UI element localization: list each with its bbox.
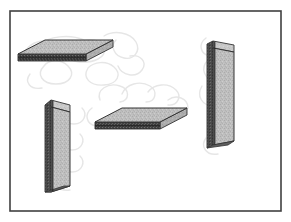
slab-3-face xyxy=(51,107,70,192)
slab-right-vertical xyxy=(207,41,234,148)
figure-root xyxy=(0,0,291,222)
slab-2-face xyxy=(213,48,234,145)
slab-3-edge-face xyxy=(45,100,51,192)
slab-bottom-left-vertical xyxy=(45,100,70,192)
figure-canvas xyxy=(0,0,291,222)
slab-2-edge-face xyxy=(207,41,213,148)
